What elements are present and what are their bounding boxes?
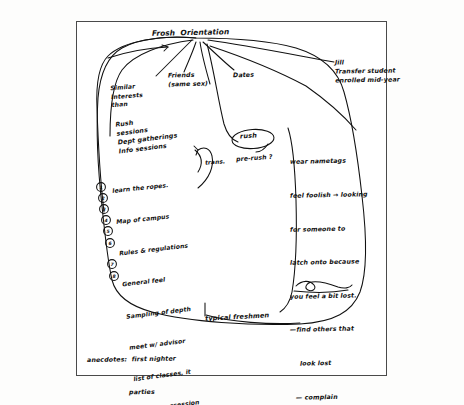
anecdote-line: parties	[87, 383, 324, 398]
branch-label-friends: Friends (same sex)	[168, 69, 208, 88]
circled-number: 2	[99, 196, 107, 201]
circled-number: 7	[108, 262, 116, 267]
anecdote-line: anecdotes: first nighter	[87, 350, 324, 365]
circled-number: 3	[100, 207, 108, 212]
diagram-title: Frosh Orientation	[152, 27, 229, 38]
note-line: wear nametags	[290, 155, 373, 168]
circled-number: 8	[110, 274, 118, 279]
note-line: for someone to	[290, 222, 373, 235]
branch-label-similar-interests: Similar Interests than	[110, 82, 144, 110]
circled-number: 4	[102, 218, 110, 223]
list-item: learn the ropes.	[112, 176, 208, 196]
list-item: General feel	[122, 269, 218, 290]
branch-label-dept-sessions: Rush sessions Dept gatherings Info sessi…	[115, 113, 179, 156]
list-item: Rules & regulations	[119, 238, 215, 259]
circled-number: 5	[104, 229, 112, 234]
anecdotes-block: anecdotes: first nighter parties wearing…	[87, 330, 324, 405]
note-line: latch onto because	[290, 255, 373, 268]
circled-number: 1	[97, 185, 105, 190]
branch-label-dates: Dates	[233, 71, 254, 79]
branch-label-jill-transfer-student: Jill Transfer student enrolled mid-year	[335, 56, 400, 85]
note-line: you feel a bit lost.	[290, 289, 373, 302]
circled-number: 6	[106, 241, 114, 246]
scanned-page: Frosh Orientation Similar Interests than…	[0, 0, 464, 405]
note-line: feel foolish → looking	[290, 188, 373, 201]
branch-label-rush: rush	[240, 132, 257, 141]
list-item: Map of campus	[116, 207, 212, 227]
